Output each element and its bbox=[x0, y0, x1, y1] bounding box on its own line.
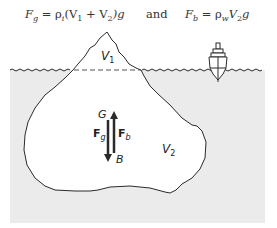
center-of-gravity-label: G bbox=[98, 108, 107, 121]
iceberg-diagram: V1 V2 G B Fg Fb bbox=[0, 0, 277, 228]
center-of-buoyancy-label: B bbox=[116, 153, 124, 166]
